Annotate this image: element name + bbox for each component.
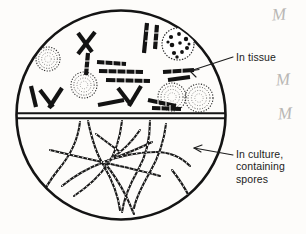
diagram-canvas	[0, 0, 306, 234]
handwritten-mark-3: M	[277, 104, 293, 125]
fragment-vertical-right-1	[144, 23, 147, 53]
fragment-bar-2	[99, 71, 143, 72]
fragment-vertical-right-2	[155, 25, 157, 49]
handwritten-mark-2: M	[275, 70, 291, 91]
fragment-arrow-bar-2	[168, 77, 190, 80]
handwritten-mark-1: M	[271, 5, 287, 26]
figure-root: In tissue In culture, containing spores …	[0, 0, 306, 234]
spherule-with-endospores	[162, 28, 194, 60]
fragment-arrow-bar-1	[163, 70, 194, 72]
label-in-culture: In culture, containing spores	[236, 148, 285, 185]
fragment-bar-6	[152, 108, 181, 109]
fragment-bar-1	[97, 62, 126, 64]
fragment-vertical-1	[86, 53, 88, 75]
label-in-tissue: In tissue	[236, 51, 276, 63]
